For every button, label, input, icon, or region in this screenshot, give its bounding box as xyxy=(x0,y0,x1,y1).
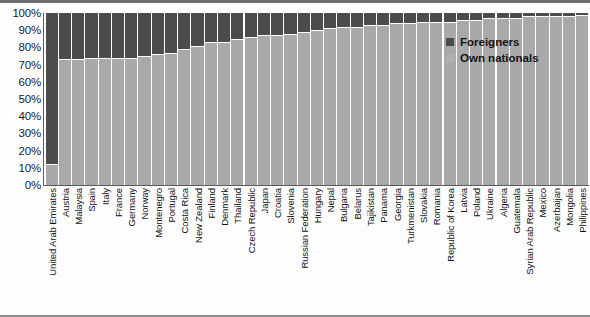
bar-column[interactable] xyxy=(165,13,177,185)
bar-column[interactable] xyxy=(337,13,349,185)
bar-segment-foreigners xyxy=(85,13,97,58)
bar-segment-own-nationals xyxy=(85,58,97,185)
x-axis-label: Poland xyxy=(471,188,482,217)
bar-segment-own-nationals xyxy=(390,23,402,185)
bar-column[interactable] xyxy=(125,13,137,185)
legend-swatch-icon-own-nationals xyxy=(446,54,454,62)
x-axis-label-cell: Romania xyxy=(430,188,442,316)
x-axis-label-cell: Finland xyxy=(205,188,217,316)
y-axis: 100%90%80%70%60%50%40%30%20%10%0% xyxy=(0,13,44,185)
x-axis-label: Syrian Arab Republic xyxy=(524,188,535,275)
bar-column[interactable] xyxy=(563,13,575,185)
x-axis-label: Belarus xyxy=(351,188,362,220)
bar-column[interactable] xyxy=(231,13,243,185)
bar-segment-own-nationals xyxy=(231,39,243,185)
bar-column[interactable] xyxy=(205,13,217,185)
bar-column[interactable] xyxy=(138,13,150,185)
bar-column[interactable] xyxy=(258,13,270,185)
x-axis-label: Germany xyxy=(126,188,137,226)
bar-segment-own-nationals xyxy=(576,15,588,185)
x-axis-label-cell: Poland xyxy=(470,188,482,316)
x-axis-label-cell: Spain xyxy=(85,188,97,316)
bar-column[interactable] xyxy=(390,13,402,185)
bar-segment-foreigners xyxy=(59,13,71,59)
x-axis-label-cell: Belarus xyxy=(351,188,363,316)
y-axis-tick: 80% xyxy=(19,41,41,53)
x-axis-label-cell: Syrian Arab Republic xyxy=(523,188,535,316)
x-axis-label-cell: Thailand xyxy=(231,188,243,316)
bar-column[interactable] xyxy=(99,13,111,185)
bar-segment-foreigners xyxy=(125,13,137,58)
bar-column[interactable] xyxy=(298,13,310,185)
bar-column[interactable] xyxy=(324,13,336,185)
bar-segment-own-nationals xyxy=(138,56,150,185)
bar-column[interactable] xyxy=(430,13,442,185)
bar-segment-foreigners xyxy=(324,13,336,28)
bar-column[interactable] xyxy=(59,13,71,185)
bar-segment-foreigners xyxy=(284,13,296,34)
x-axis-label-cell: Nepal xyxy=(324,188,336,316)
x-axis-label-cell: Republic of Korea xyxy=(444,188,456,316)
bar-column[interactable] xyxy=(351,13,363,185)
bar-segment-own-nationals xyxy=(563,16,575,185)
legend-swatch-icon-foreigners xyxy=(446,38,454,46)
bar-column[interactable] xyxy=(191,13,203,185)
bar-column[interactable] xyxy=(271,13,283,185)
bar-segment-foreigners xyxy=(72,13,84,59)
bar-column[interactable] xyxy=(72,13,84,185)
bar-segment-foreigners xyxy=(46,13,58,164)
bar-column[interactable] xyxy=(364,13,376,185)
bar-segment-own-nationals xyxy=(191,46,203,185)
bar-column[interactable] xyxy=(404,13,416,185)
bar-column[interactable] xyxy=(112,13,124,185)
bar-segment-foreigners xyxy=(377,13,389,25)
bar-column[interactable] xyxy=(46,13,58,185)
x-axis-label: Algeria xyxy=(497,188,508,217)
bar-segment-foreigners xyxy=(112,13,124,58)
x-axis-label: Slovakia xyxy=(418,188,429,223)
legend-item-own-nationals[interactable]: Own nationals xyxy=(446,52,539,64)
bar-column[interactable] xyxy=(377,13,389,185)
bar-column[interactable] xyxy=(311,13,323,185)
bar-column[interactable] xyxy=(417,13,429,185)
x-axis-label-cell: New Zealand xyxy=(191,188,203,316)
bar-segment-own-nationals xyxy=(430,22,442,185)
x-axis-label: Denmark xyxy=(219,188,230,226)
bar-column[interactable] xyxy=(218,13,230,185)
y-axis-tick: 50% xyxy=(19,93,41,105)
legend-label-foreigners: Foreigners xyxy=(460,36,519,48)
x-axis-label-cell: Japan xyxy=(258,188,270,316)
x-axis-label: Thailand xyxy=(232,188,243,224)
x-axis-label: United Arab Emirates xyxy=(46,188,57,276)
legend-item-foreigners[interactable]: Foreigners xyxy=(446,36,539,48)
x-axis-label-cell: France xyxy=(112,188,124,316)
x-axis-label: Costa Rica xyxy=(179,188,190,233)
bar-segment-own-nationals xyxy=(112,58,124,185)
bar-column[interactable] xyxy=(85,13,97,185)
x-axis-label-cell: Guatemala xyxy=(510,188,522,316)
y-axis-tick: 40% xyxy=(19,110,41,122)
x-axis-label-cell: Turkmenistan xyxy=(404,188,416,316)
bar-column[interactable] xyxy=(178,13,190,185)
bar-segment-foreigners xyxy=(138,13,150,56)
y-axis-line xyxy=(43,13,44,186)
x-axis-label: Austria xyxy=(59,188,70,217)
bar-segment-own-nationals xyxy=(364,25,376,185)
x-axis-label: Turkmenistan xyxy=(404,188,415,244)
x-axis-label: Montenegro xyxy=(152,188,163,238)
bar-column[interactable] xyxy=(284,13,296,185)
x-axis-label: Norway xyxy=(139,188,150,220)
x-axis-label: Czech Republic xyxy=(245,188,256,253)
bar-column[interactable] xyxy=(245,13,257,185)
bar-column[interactable] xyxy=(152,13,164,185)
x-axis-label-cell: Mongolia xyxy=(563,188,575,316)
y-axis-tick: 30% xyxy=(19,127,41,139)
bar-segment-own-nationals xyxy=(404,23,416,185)
x-axis-label-cell: Germany xyxy=(125,188,137,316)
bar-column[interactable] xyxy=(550,13,562,185)
x-axis-label-cell: Montenegro xyxy=(152,188,164,316)
bar-column[interactable] xyxy=(576,13,588,185)
bar-segment-own-nationals xyxy=(46,164,58,185)
bar-segment-own-nationals xyxy=(152,54,164,185)
bar-segment-foreigners xyxy=(178,13,190,49)
